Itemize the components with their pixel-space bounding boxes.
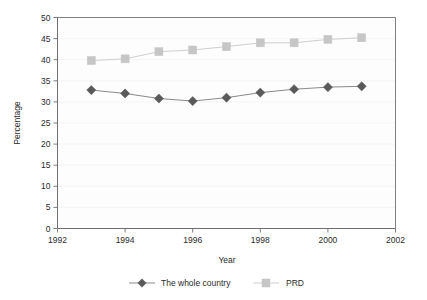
y-tick-label: 35 — [41, 76, 51, 86]
chart-container: 05101520253035404550 1992199419961998200… — [0, 0, 427, 300]
y-tick-label: 15 — [41, 160, 51, 170]
y-tick-label: 25 — [41, 118, 51, 128]
data-point-marker — [256, 39, 264, 47]
data-point-marker — [121, 55, 129, 63]
x-tick-label: 1996 — [183, 235, 202, 245]
x-tick-label: 1998 — [251, 235, 270, 245]
legend-label-prd: PRD — [286, 278, 304, 288]
x-tick-label: 1994 — [116, 235, 135, 245]
y-tick-label: 30 — [41, 97, 51, 107]
y-tick-label: 40 — [41, 55, 51, 65]
data-point-marker — [155, 48, 163, 56]
data-point-marker — [87, 57, 95, 65]
y-tick-label: 0 — [46, 224, 51, 234]
x-tick-label: 2002 — [386, 235, 405, 245]
y-tick-label: 10 — [41, 181, 51, 191]
x-axis-title: Year — [218, 255, 235, 265]
data-point-marker — [223, 43, 231, 51]
y-tick-label: 5 — [46, 202, 51, 212]
data-point-marker — [324, 35, 332, 43]
legend-label-whole-country: The whole country — [161, 278, 231, 288]
y-axis-title: Percentage — [12, 101, 22, 145]
data-point-marker — [290, 39, 298, 47]
x-tick-label: 1992 — [48, 235, 67, 245]
data-point-marker — [189, 46, 197, 54]
y-tick-label: 50 — [41, 13, 51, 23]
legend-marker-prd — [262, 279, 270, 287]
data-point-marker — [358, 34, 366, 42]
y-tick-label: 45 — [41, 34, 51, 44]
percentage-by-year-line-chart: 05101520253035404550 1992199419961998200… — [0, 0, 427, 300]
x-tick-label: 2000 — [318, 235, 337, 245]
y-tick-label: 20 — [41, 139, 51, 149]
